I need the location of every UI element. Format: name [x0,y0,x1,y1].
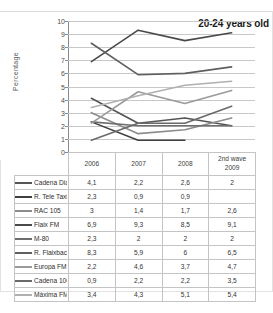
col-header-2009-line1: 2nd wave [209,155,255,164]
table-cell: 2,2 [69,260,116,274]
table-cell: 4,3 [115,288,162,302]
legend-label: Cadena 100 [34,277,67,284]
table-cell: 2,2 [115,274,162,288]
legend-cell: RAC 105 [15,204,69,218]
legend-label: R. Tele Taxi [34,193,67,200]
table-cell: 1,4 [115,204,162,218]
table-cell: 8,3 [69,246,116,260]
table-cell: 0,9 [69,274,116,288]
left-divider [0,160,1,291]
table-cell: 2,2 [162,274,209,288]
table-cell: 1,7 [162,204,209,218]
legend-swatch-icon [15,252,32,254]
table-cell: 2 [209,176,256,190]
data-table-wrap: 2006 2007 2008 2nd wave 2009 Cadena Dial… [14,152,255,302]
series-lines [68,21,255,152]
table-cell: 6,5 [209,246,256,260]
table-cell: 4,7 [209,260,256,274]
table-row: RAC 10531,41,72,6 [15,204,256,218]
col-header-2007: 2007 [115,153,162,176]
legend-swatch-icon [15,196,32,198]
table-header-row: 2006 2007 2008 2nd wave 2009 [15,153,256,176]
table-cell: 2,3 [69,190,116,204]
table-cell: 2,2 [115,176,162,190]
table-cell: 4,1 [69,176,116,190]
table-cell: 3 [69,204,116,218]
table-row: Europa FM2,24,63,74,7 [15,260,256,274]
plot-area: 012345678910 [68,21,255,152]
data-table: 2006 2007 2008 2nd wave 2009 Cadena Dial… [14,152,256,302]
table-cell: 5,4 [209,288,256,302]
y-axis-label: Percentage [12,37,19,107]
legend-cell: R. Flaixbac [15,246,69,260]
table-cell: 9,1 [209,218,256,232]
table-cell: 2 [209,232,256,246]
table-cell: 3,4 [69,288,116,302]
legend-label: RAC 105 [34,207,61,214]
legend-cell: M-80 [15,232,69,246]
col-header-2006: 2006 [69,153,116,176]
table-cell: 9,3 [115,218,162,232]
table-cell: 2,3 [69,232,116,246]
chart-page: Percentage 20-24 years old 012345678910 … [0,0,273,313]
y-axis-tick-label: 10 [57,18,65,25]
legend-cell: Europa FM [15,260,69,274]
table-cell: 6 [162,246,209,260]
table-cell: 3,5 [209,274,256,288]
table-cell: 8,5 [162,218,209,232]
legend-swatch-icon [15,266,32,268]
table-cell: 0,9 [162,190,209,204]
legend-label: Cadena Dial [34,179,67,186]
series-line [91,90,231,123]
legend-label: Máxima FM [34,291,67,298]
legend-swatch-icon [15,238,32,240]
col-header-2009: 2nd wave 2009 [209,153,256,176]
table-cell: 6,9 [69,218,116,232]
col-header-2008: 2008 [162,153,209,176]
legend-swatch-icon [15,224,32,226]
legend-cell: R. Tele Taxi [15,190,69,204]
series-line [91,81,231,107]
table-cell: 2 [115,232,162,246]
table-row: Cadena 1000,92,22,23,5 [15,274,256,288]
table-cell [209,190,256,204]
legend-label: Flaix FM [34,221,59,228]
table-row: R. Flaixbac8,35,966,5 [15,246,256,260]
legend-header [15,153,69,176]
table-body: Cadena Dial4,12,22,62R. Tele Taxi2,30,90… [15,176,256,302]
legend-swatch-icon [15,182,32,184]
table-cell: 5,1 [162,288,209,302]
table-row: Flaix FM6,99,38,59,1 [15,218,256,232]
table-cell: 2,6 [162,176,209,190]
table-row: Cadena Dial4,12,22,62 [15,176,256,190]
legend-swatch-icon [15,294,32,296]
legend-label: Europa FM [34,263,67,270]
table-cell: 3,7 [162,260,209,274]
legend-cell: Cadena Dial [15,176,69,190]
legend-label: M-80 [34,235,49,242]
table-cell: 2,6 [209,204,256,218]
legend-swatch-icon [15,280,32,282]
table-row: M-802,3222 [15,232,256,246]
table-row: Máxima FM3,44,35,15,4 [15,288,256,302]
col-header-2009-line2: 2009 [209,164,255,173]
table-cell: 5,9 [115,246,162,260]
legend-cell: Flaix FM [15,218,69,232]
legend-label: R. Flaixbac [34,249,67,256]
legend-swatch-icon [15,210,32,212]
table-cell: 4,6 [115,260,162,274]
table-row: R. Tele Taxi2,30,90,9 [15,190,256,204]
line-chart: Percentage 20-24 years old 012345678910 [0,12,273,158]
legend-cell: Cadena 100 [15,274,69,288]
table-cell: 2 [162,232,209,246]
legend-cell: Máxima FM [15,288,69,302]
table-cell: 0,9 [115,190,162,204]
